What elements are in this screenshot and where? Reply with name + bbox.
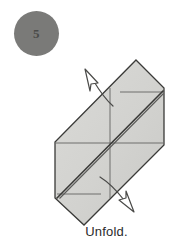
unfold-arrow-upper-left-head <box>85 69 98 91</box>
unfold-arrow-lower-right-head <box>119 191 134 212</box>
origami-step-panel: 5 <box>0 0 175 246</box>
origami-diagram <box>0 0 175 246</box>
step-caption: Unfold. <box>0 224 175 239</box>
